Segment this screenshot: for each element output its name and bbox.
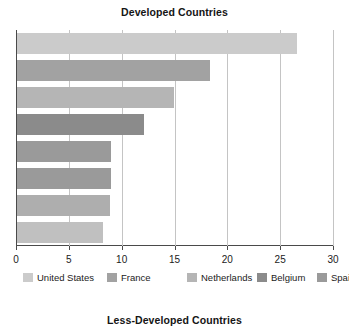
plot-area: 051015202530 <box>16 30 333 246</box>
bar-row <box>17 165 334 192</box>
bar <box>17 114 144 135</box>
legend-swatch-icon <box>107 273 117 282</box>
legend-label: France <box>121 271 151 284</box>
x-tick-label: 20 <box>222 254 233 265</box>
legend-label: Belgium <box>271 271 305 284</box>
bar-chart-figure: Developed Countries 051015202530 United … <box>0 0 349 332</box>
x-tick-mark <box>122 246 123 250</box>
bar <box>17 168 111 189</box>
chart-caption: Less-Developed Countries <box>0 314 349 326</box>
bar-row <box>17 30 334 57</box>
legend-item[interactable]: France <box>107 271 187 284</box>
legend-label: Spain <box>331 271 349 284</box>
bar-row <box>17 84 334 111</box>
legend-swatch-icon <box>187 273 197 282</box>
x-tick-mark <box>16 246 17 250</box>
x-tick-label: 15 <box>169 254 180 265</box>
bar-row <box>17 219 334 246</box>
x-tick-mark <box>227 246 228 250</box>
x-tick-mark <box>69 246 70 250</box>
legend-label: United States <box>37 271 94 284</box>
bar-row <box>17 111 334 138</box>
legend-swatch-icon <box>257 273 267 282</box>
bar-row <box>17 57 334 84</box>
legend-swatch-icon <box>317 273 327 282</box>
legend-item[interactable]: United States <box>23 271 107 284</box>
legend-item[interactable]: Belgium <box>257 271 317 284</box>
bar <box>17 195 110 216</box>
legend-item[interactable]: Spain <box>317 271 349 284</box>
bar <box>17 222 103 243</box>
x-tick-label: 25 <box>275 254 286 265</box>
legend-swatch-icon <box>23 273 33 282</box>
bar <box>17 141 111 162</box>
bars-layer <box>17 30 333 246</box>
legend-item[interactable]: Netherlands <box>187 271 257 284</box>
chart-legend: United StatesFranceNetherlandsBelgiumSpa… <box>23 271 333 284</box>
bar <box>17 60 210 81</box>
x-tick-label: 10 <box>116 254 127 265</box>
x-tick-mark <box>175 246 176 250</box>
bar <box>17 87 174 108</box>
bar-row <box>17 138 334 165</box>
bar-row <box>17 192 334 219</box>
legend-label: Netherlands <box>201 271 252 284</box>
x-tick-label: 0 <box>13 254 19 265</box>
x-tick-label: 30 <box>327 254 338 265</box>
x-tick-mark <box>280 246 281 250</box>
chart-title: Developed Countries <box>0 6 349 18</box>
x-tick-mark <box>333 246 334 250</box>
x-tick-label: 5 <box>66 254 72 265</box>
bar <box>17 33 297 54</box>
